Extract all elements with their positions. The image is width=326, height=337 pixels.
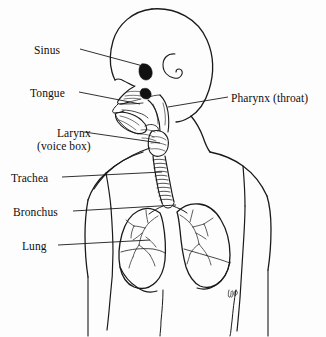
neck-posterior bbox=[191, 116, 210, 152]
torso-left-side bbox=[107, 208, 113, 330]
left-shoulder bbox=[88, 152, 143, 200]
face-profile-upper bbox=[115, 79, 134, 86]
bronchus-leader bbox=[73, 205, 176, 211]
tongue-surface-line-2 bbox=[119, 120, 136, 130]
label-bronchus: Bronchus bbox=[13, 206, 58, 219]
torso-right-side bbox=[237, 206, 245, 331]
right-costal-margin bbox=[197, 262, 230, 289]
label-lung: Lung bbox=[22, 240, 47, 253]
nasal-septum bbox=[129, 99, 141, 102]
right-arm-outer bbox=[267, 196, 271, 270]
artist-signature bbox=[228, 290, 237, 297]
label-trachea: Trachea bbox=[11, 172, 48, 185]
right-lung-outline bbox=[177, 204, 230, 288]
label-sinus: Sinus bbox=[34, 44, 60, 57]
laryngeal-fold-2 bbox=[140, 134, 154, 137]
label-larynx-sub: (voice box) bbox=[37, 140, 91, 153]
posterior-sinus-cavity bbox=[140, 88, 151, 99]
nasal-turbinate-3 bbox=[124, 98, 140, 99]
abdomen-midline bbox=[160, 290, 163, 336]
upper-lip bbox=[113, 104, 124, 113]
left-lung-fissure bbox=[121, 249, 165, 253]
larynx-detail-3 bbox=[151, 149, 165, 151]
pharynx-anterior bbox=[148, 100, 160, 131]
sinus-cavity bbox=[139, 64, 152, 80]
lung-leader bbox=[58, 240, 150, 245]
nasal-turbinate-1 bbox=[127, 91, 142, 92]
label-pharynx: Pharynx (throat) bbox=[231, 92, 308, 105]
pharynx-leader bbox=[168, 97, 228, 107]
tongue-surface-line-1 bbox=[120, 116, 139, 125]
nasal-turbinate-2 bbox=[125, 95, 141, 96]
pharynx-posterior bbox=[160, 95, 169, 132]
label-larynx: Larynx (voice box) bbox=[37, 127, 91, 152]
respiratory-system-figure: Sinus Tongue Larynx (voice box) Trachea … bbox=[0, 0, 326, 337]
mouth-floor bbox=[115, 114, 138, 134]
sinus-leader bbox=[80, 49, 143, 66]
label-tongue: Tongue bbox=[30, 87, 65, 100]
right-shoulder bbox=[210, 152, 267, 196]
left-bronchial-tree bbox=[126, 210, 158, 268]
pharynx-inner-line-2 bbox=[163, 103, 165, 125]
label-larynx-main: Larynx bbox=[57, 127, 91, 139]
left-clavicle bbox=[94, 148, 150, 189]
right-bronchial-tree bbox=[180, 210, 213, 265]
ear-outline bbox=[163, 54, 182, 78]
left-armpit bbox=[106, 173, 111, 208]
trachea-leader bbox=[62, 172, 162, 177]
left-arm-outer bbox=[85, 200, 88, 277]
larynx-outline bbox=[148, 131, 168, 157]
right-lung-fissure bbox=[184, 249, 230, 263]
right-armpit bbox=[243, 166, 245, 206]
hard-palate bbox=[122, 110, 148, 118]
